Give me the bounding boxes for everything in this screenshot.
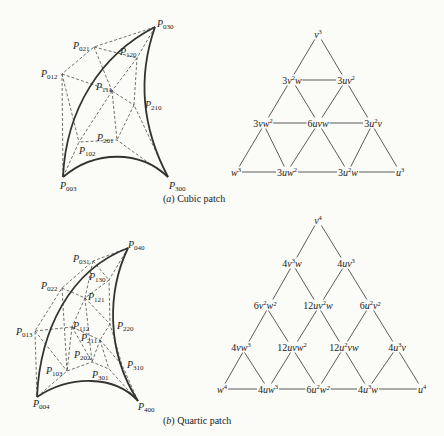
bernstein-term: 4v3w — [281, 258, 302, 269]
term-exponent: 2 — [303, 341, 306, 348]
bernstein-term: 4vw3 — [230, 342, 251, 353]
control-point-label: P030 — [157, 19, 174, 31]
caption-tag: a — [166, 193, 171, 204]
point-index: 202 — [80, 354, 91, 362]
point-index: 201 — [103, 137, 114, 145]
point-index: 121 — [94, 296, 105, 304]
control-point-label: P210 — [145, 100, 162, 112]
control-point-label: P220 — [117, 321, 134, 333]
control-point-label: P102 — [79, 146, 96, 158]
term-tail: w — [326, 300, 333, 311]
term-variables: w — [217, 384, 224, 395]
term-exponent: 2 — [269, 117, 272, 124]
term-tail: w² — [320, 384, 330, 395]
control-point-label: P103 — [46, 366, 63, 378]
point-index: 220 — [123, 325, 134, 333]
term-coefficient: 12 — [303, 300, 313, 311]
bernstein-term: 3vw2 — [252, 118, 273, 129]
term-variables: uw — [263, 384, 275, 395]
control-point-label: P040 — [128, 240, 145, 252]
point-index: 400 — [144, 406, 155, 414]
term-exponent: 3 — [275, 383, 278, 390]
control-point-label: P012 — [41, 69, 58, 81]
term-exponent: 4 — [224, 383, 227, 390]
term-tail: v — [401, 342, 405, 353]
caption-text: Quartic patch — [177, 415, 231, 426]
point-index: 111 — [102, 86, 112, 94]
term-variables: vw — [236, 342, 247, 353]
bernstein-term: 3v2w — [281, 75, 302, 86]
point-index: 211 — [87, 337, 97, 345]
control-point-label: P211 — [81, 333, 97, 345]
point-index: 012 — [47, 73, 58, 81]
bernstein-term: 3uw2 — [276, 167, 298, 178]
control-point-label: P301 — [92, 370, 109, 382]
term-tail: w — [351, 167, 358, 178]
point-index: 310 — [133, 364, 144, 372]
point-index: 022 — [47, 285, 58, 293]
point-index: 004 — [39, 403, 50, 411]
term-tail: v² — [373, 300, 380, 311]
term-variables: uvw — [312, 118, 328, 129]
term-tail: v — [377, 118, 381, 129]
control-point-label: P013 — [16, 327, 33, 339]
point-index: 021 — [79, 45, 90, 53]
term-coefficient: 12 — [329, 342, 339, 353]
bernstein-term: 4u3v — [387, 342, 407, 353]
control-point-label: P300 — [169, 181, 186, 193]
control-point-label: P003 — [60, 181, 77, 193]
term-exponent: 3 — [319, 28, 322, 35]
control-point-label: P021 — [73, 41, 90, 53]
bernstein-term: 4u3w — [357, 384, 379, 395]
bernstein-term: 6u2w² — [306, 384, 331, 395]
control-point-label: P400 — [138, 402, 155, 414]
point-index: 040 — [134, 244, 145, 252]
control-point-label: P022 — [41, 281, 58, 293]
cubic-caption: (a) Cubic patch — [163, 193, 225, 204]
bernstein-term: u4 — [417, 384, 427, 395]
bernstein-term: 3uv2 — [336, 75, 356, 86]
control-point-label: P031 — [73, 254, 90, 266]
term-exponent: 3 — [238, 166, 241, 173]
point-index: 210 — [151, 104, 162, 112]
control-point-label: P111 — [96, 82, 112, 94]
term-variables: uw — [282, 167, 294, 178]
caption-text: Cubic patch — [177, 193, 225, 204]
bernstein-term: w3 — [230, 167, 242, 178]
term-exponent: 3 — [247, 341, 250, 348]
term-tail: vw — [348, 342, 359, 353]
term-tail: w² — [267, 300, 277, 311]
bernstein-term: 6u2v² — [359, 300, 382, 311]
point-index: 031 — [79, 258, 90, 266]
bernstein-term: 12uv2w — [302, 300, 333, 311]
term-variables: vw — [258, 118, 269, 129]
point-index: 102 — [85, 150, 96, 158]
point-index: 030 — [163, 23, 174, 31]
point-index: 300 — [175, 185, 186, 193]
control-point-label: P202 — [74, 350, 91, 362]
point-index: 130 — [95, 276, 106, 284]
point-index: 120 — [126, 51, 137, 59]
term-tail: w — [371, 384, 378, 395]
bernstein-term: 3u2w — [337, 167, 359, 178]
control-point-label: P004 — [33, 399, 50, 411]
diagram-canvas — [0, 0, 444, 436]
bernstein-term: u3 — [395, 167, 405, 178]
term-exponent: 2 — [352, 74, 355, 81]
bernstein-term: w4 — [216, 384, 228, 395]
term-exponent: 3 — [401, 166, 404, 173]
control-point-label: P201 — [97, 133, 114, 145]
control-point-label: P310 — [127, 360, 144, 372]
term-tail: w — [295, 258, 302, 269]
bernstein-term: v4 — [313, 215, 323, 226]
term-variables: uvw — [287, 342, 303, 353]
bernstein-term: 3u2v — [363, 118, 383, 129]
control-point-label: P121 — [88, 292, 105, 304]
bernstein-term: v3 — [313, 29, 323, 40]
bernstein-term: 6v2w² — [253, 300, 277, 311]
term-exponent: 3 — [352, 257, 355, 264]
bernstein-term: 4uv3 — [336, 258, 356, 269]
bernstein-term: 6uvw — [306, 118, 329, 129]
term-tail: w — [295, 75, 302, 86]
term-exponent: 4 — [423, 383, 426, 390]
